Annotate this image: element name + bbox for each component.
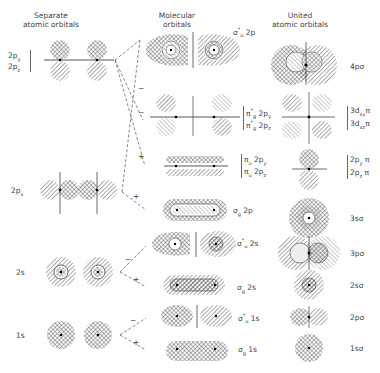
mo-sigma-u-1s xyxy=(161,305,232,328)
sign-plus-2s: + xyxy=(133,275,139,284)
label-ua-3p-sigma: 3pσ xyxy=(350,249,364,258)
label-ua-3dxz-pi: 3dxzπ xyxy=(350,119,370,132)
label-ua-1s-sigma: 1sσ xyxy=(350,344,363,353)
mo-sigma-g-2s xyxy=(163,275,225,295)
mo-sigma-g-1s xyxy=(166,341,228,361)
separate-1s xyxy=(47,321,112,349)
ua-4p-sigma xyxy=(271,42,337,85)
label-ua-3s-sigma: 3sσ xyxy=(350,214,363,223)
label-ua-4p-sigma: 4pσ xyxy=(350,62,364,71)
ua-1s-sigma xyxy=(295,334,323,362)
sign-minus-1s: − xyxy=(130,316,136,325)
brace-ua-3d xyxy=(347,106,348,130)
label-ua-2pz-pi: 2pz π xyxy=(350,168,369,181)
label-separate-2pz: 2pz xyxy=(8,62,20,75)
brace-mo-pi-u xyxy=(241,154,242,178)
brace-mo-pi-g xyxy=(243,106,244,130)
mo-sigma-g-2p xyxy=(163,199,227,221)
ua-3s-sigma xyxy=(289,198,329,238)
ua-3d-pi xyxy=(282,92,335,144)
sign-minus-2p-a: − xyxy=(138,84,144,93)
brace-ua-2p xyxy=(347,155,348,179)
label-ua-2s-sigma: 2sσ xyxy=(350,281,363,290)
label-mo-sigma-g-2s: σg 2s xyxy=(237,283,256,296)
mo-sigma-u-2s xyxy=(152,231,236,257)
sign-minus-2s: − xyxy=(125,255,131,264)
label-ua-3dxy-pi: 3dxyπ xyxy=(350,106,370,119)
label-separate-2px: 2px xyxy=(11,186,24,199)
label-mo-sigma-u-1s: σ*u 1s xyxy=(238,311,260,326)
label-separate-2s: 2s xyxy=(16,268,25,277)
label-mo-pi-g-2pz: π*g 2pz xyxy=(246,118,271,133)
brace-separate-2p xyxy=(30,50,31,72)
label-separate-1s: 1s xyxy=(16,331,25,340)
label-mo-pi-u-2pz: πu 2pz xyxy=(244,167,266,180)
ua-2s-sigma xyxy=(294,270,324,300)
label-mo-sigma-g-1s: σg 1s xyxy=(238,345,257,358)
mo-pi-u-2p xyxy=(164,156,228,176)
label-mo-sigma-u-2p: σ*u 2p xyxy=(233,25,255,40)
mo-sigma-u-2p xyxy=(146,32,240,68)
separate-2px xyxy=(40,172,117,214)
sign-plus-2p-b: + xyxy=(133,192,139,201)
label-ua-2py-pi: 2py π xyxy=(350,155,369,168)
separate-2s xyxy=(46,257,113,287)
label-mo-pi-u-2py: πu 2py xyxy=(244,155,267,168)
ua-2p-sigma xyxy=(290,306,328,328)
label-ua-2p-sigma: 2pσ xyxy=(350,313,364,322)
ua-3p-sigma xyxy=(278,236,340,270)
orbital-correlation-diagram xyxy=(0,0,380,373)
sign-plus-2p-a: + xyxy=(138,152,144,161)
sign-plus-1s: + xyxy=(133,338,139,347)
separate-2py-2pz xyxy=(44,40,114,81)
ua-2p-pi xyxy=(292,149,327,190)
label-mo-sigma-g-2p: σg 2p xyxy=(233,206,253,219)
sign-minus-2p-b: − xyxy=(138,108,144,117)
mo-pi-g-2p xyxy=(150,94,240,136)
label-mo-sigma-u-2s: σ*u 2s xyxy=(237,236,259,251)
